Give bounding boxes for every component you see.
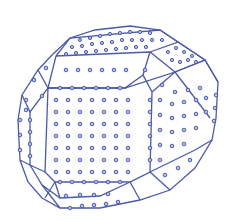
right-face-atoms (158, 83, 208, 177)
polyhedron-edges (18, 26, 218, 208)
polyhedron-diagram (0, 0, 228, 222)
crystal-figure (0, 0, 228, 222)
atom-lattice (18, 30, 218, 209)
front-face-atoms (54, 98, 130, 174)
